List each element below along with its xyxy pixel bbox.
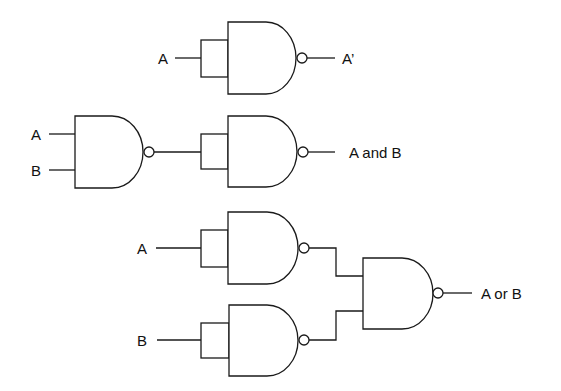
or-tied-inputs-bracket-b xyxy=(201,323,229,358)
and-circuit: A B A and B xyxy=(31,116,402,188)
nand-logic-diagram: A A’ A B A and B A B xyxy=(0,0,561,391)
and-tied-inputs-bracket xyxy=(201,134,228,169)
nand-gate-body xyxy=(229,305,298,376)
and-input-label-b: B xyxy=(31,162,41,179)
inversion-bubble xyxy=(433,288,443,298)
nand-gate-body xyxy=(363,258,433,329)
and-output-label: A and B xyxy=(349,144,402,161)
inversion-bubble xyxy=(297,53,307,63)
or-wire-b-to-final xyxy=(309,311,363,340)
or-input-label-b: B xyxy=(137,332,147,349)
nand-gate-body xyxy=(228,22,296,94)
or-wire-a-to-final xyxy=(309,248,363,276)
not-tied-inputs-bracket xyxy=(201,40,228,77)
inversion-bubble xyxy=(298,147,308,157)
inversion-bubble xyxy=(144,147,154,157)
nand-gate-body xyxy=(228,116,297,187)
and-input-label-a: A xyxy=(31,126,41,143)
not-input-label-a: A xyxy=(158,50,168,67)
or-circuit: A B A or B xyxy=(137,212,522,376)
not-circuit: A A’ xyxy=(158,22,354,94)
or-tied-inputs-bracket-a xyxy=(201,230,228,267)
not-output-label: A’ xyxy=(342,50,354,67)
inversion-bubble xyxy=(299,243,309,253)
or-output-label: A or B xyxy=(481,285,522,302)
inversion-bubble xyxy=(299,335,309,345)
nand-gate-body xyxy=(228,212,298,284)
nand-gate-body xyxy=(75,116,143,188)
or-input-label-a: A xyxy=(137,240,147,257)
